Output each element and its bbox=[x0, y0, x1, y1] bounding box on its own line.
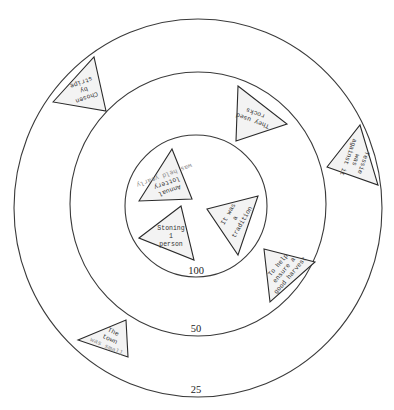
card-they-used-rocks[interactable]: They usedrocks bbox=[235, 86, 287, 141]
card-text-line: Stoning bbox=[157, 225, 184, 232]
cards: ChosenbystripeThey usedrocksTessiewasaga… bbox=[53, 57, 378, 357]
card-text-line: person bbox=[159, 241, 183, 248]
card-tessie-was-against-it[interactable]: Tessiewasagainst it bbox=[327, 125, 378, 185]
card-stoning-1-person[interactable]: Stoning1person bbox=[139, 206, 194, 260]
concentric-ring-diagram: ChosenbystripeThey usedrocksTessiewasaga… bbox=[0, 0, 394, 410]
card-it-was-a-tradition[interactable]: It wasatradition bbox=[207, 196, 258, 255]
ring-label-100: 100 bbox=[188, 265, 204, 276]
triangle-card-shape bbox=[139, 206, 194, 260]
card-the-town-was-small[interactable]: Thetownwas small bbox=[78, 320, 131, 357]
ring-25 bbox=[14, 19, 382, 397]
ring-label-50: 50 bbox=[191, 323, 202, 334]
rings bbox=[14, 19, 382, 397]
card-chosen-by-stripe[interactable]: Chosenbystripe bbox=[53, 57, 106, 111]
ring-label-25: 25 bbox=[191, 384, 202, 395]
ring-labels: 2550100 bbox=[188, 265, 204, 395]
ring-50 bbox=[70, 72, 326, 336]
card-text-line: 1 bbox=[169, 233, 173, 240]
